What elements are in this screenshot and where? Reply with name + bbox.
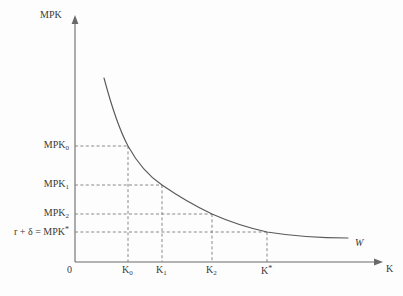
x-tick-label-k-star: K* <box>261 265 272 276</box>
mpk-capital-diagram: MPK K 0 MPK0 MPK1 MPK2 r + δ = MPK* K0 K… <box>0 0 403 296</box>
y-tick-label-mpk1: MPK1 <box>0 179 69 191</box>
y-tick-label-mpk-star: r + δ = MPK* <box>0 226 69 237</box>
y-axis-label: MPK <box>40 10 62 20</box>
x-axis-arrowhead <box>374 259 383 266</box>
y-axis-arrowhead <box>72 15 79 24</box>
origin-label: 0 <box>67 265 72 275</box>
y-tick-label-mpk2: MPK2 <box>0 208 69 220</box>
y-tick-label-mpk0: MPK0 <box>0 140 69 152</box>
curve-label-w: W <box>355 238 363 248</box>
x-axis-label: K <box>386 264 393 274</box>
x-tick-label-k0: K0 <box>122 265 133 277</box>
x-tick-label-k1: K1 <box>156 265 167 277</box>
x-tick-label-k2: K2 <box>206 265 217 277</box>
